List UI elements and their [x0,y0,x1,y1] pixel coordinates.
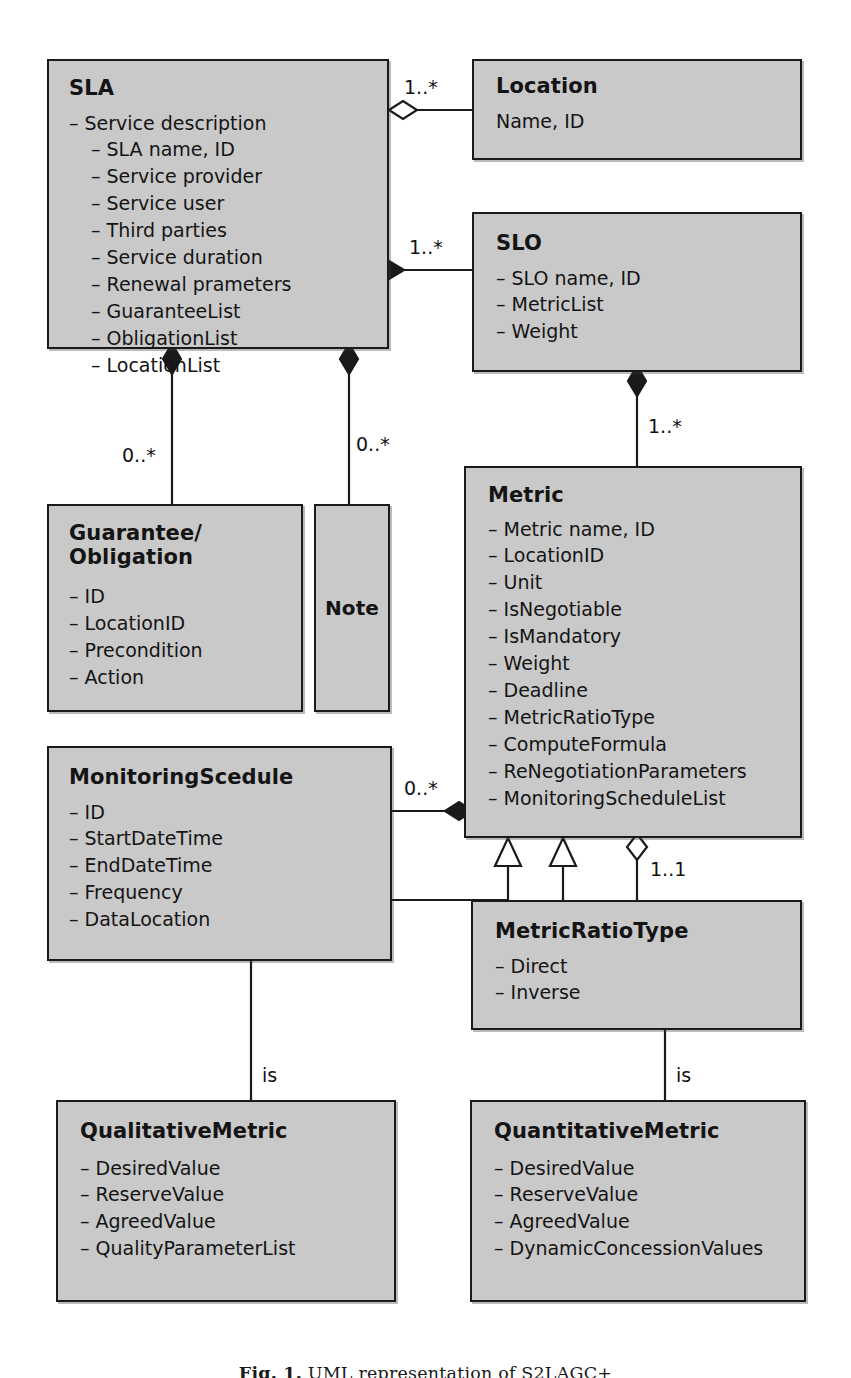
attr-item: – Inverse [495,979,788,1006]
attr-item: – Renewal prameters [69,271,373,298]
figure-caption-label: Fig. 1. [239,1363,302,1378]
attr-item: – Action [69,664,289,691]
attr-item: – Weight [496,318,786,345]
class-attrs-guarantee-obligation: – ID – LocationID – Precondition – Actio… [69,583,289,691]
class-attrs-metric: – Metric name, ID – LocationID – Unit – … [488,516,790,813]
figure-caption-text: UML representation of S2LAGC+ [308,1363,612,1378]
class-box-qualitative-metric[interactable]: QualitativeMetric – DesiredValue – Reser… [56,1100,396,1302]
class-title-qualitative-metric: QualitativeMetric [80,1120,382,1144]
attr-item: – AgreedValue [494,1208,796,1235]
attr-item: – IsMandatory [488,623,790,650]
class-attrs-slo: – SLO name, ID – MetricList – Weight [496,265,786,346]
class-title-monitoring-scedule: MonitoringScedule [69,766,378,790]
attr-item: – ComputeFormula [488,731,790,758]
multiplicity-monitoring-metric: 0..* [404,777,438,799]
attr-item: – GuaranteeList [69,298,373,325]
attr-item: – ReserveValue [494,1181,796,1208]
multiplicity-slo-metric: 1..* [648,415,682,437]
multiplicity-sla-guarantee: 0..* [122,444,156,466]
attr-item: – EndDateTime [69,852,378,879]
class-box-metric[interactable]: Metric – Metric name, ID – LocationID – … [464,466,802,838]
attr-item: – Metric name, ID [488,516,790,543]
class-title-metric-ratio-type: MetricRatioType [495,920,788,944]
class-title-sla: SLA [69,77,373,101]
class-box-monitoring-scedule[interactable]: MonitoringScedule – ID – StartDateTime –… [47,746,392,961]
attr-item: – DataLocation [69,906,378,933]
attr-item: – MetricList [496,291,786,318]
attr-item: – Direct [495,953,788,980]
attr-item: – LocationList [69,352,373,379]
class-attrs-monitoring-scedule: – ID – StartDateTime – EndDateTime – Fre… [69,799,378,934]
edge-label-is-quantitative: is [676,1064,691,1086]
edge-label-is-qualitative: is [262,1064,277,1086]
class-box-location[interactable]: Location Name, ID [472,59,802,160]
class-title-quantitative-metric: QuantitativeMetric [494,1120,796,1144]
class-box-note[interactable]: Note [314,504,390,712]
class-box-metric-ratio-type[interactable]: MetricRatioType – Direct – Inverse [471,900,802,1030]
class-box-sla[interactable]: SLA – Service description – SLA name, ID… [47,59,389,349]
attr-item: – Precondition [69,637,289,664]
multiplicity-sla-location: 1..* [404,76,438,98]
attr-item: – Service provider [69,163,373,190]
class-attrs-sla: – Service description – SLA name, ID – S… [69,110,373,380]
attr-item: – IsNegotiable [488,596,790,623]
attr-item: – AgreedValue [80,1208,382,1235]
attr-item: – Deadline [488,677,790,704]
attr-item: – LocationID [69,610,289,637]
attr-item: – Third parties [69,217,373,244]
aggregation-diamond-sla-location [389,101,417,119]
attr-item: – Service description [69,110,373,137]
attr-item: – Service duration [69,244,373,271]
figure-caption: Fig. 1. UML representation of S2LAGC+ [0,1363,851,1378]
class-attr-location-name-id: Name, ID [496,108,786,135]
attr-item: – QualityParameterList [80,1235,382,1262]
class-title-slo: SLO [496,232,786,256]
attr-item: – DesiredValue [80,1155,382,1182]
multiplicity-sla-note: 0..* [356,433,390,455]
generalization-triangle-quantitative [550,838,576,866]
class-attrs-qualitative-metric: – DesiredValue – ReserveValue – AgreedVa… [80,1155,382,1263]
class-box-quantitative-metric[interactable]: QuantitativeMetric – DesiredValue – Rese… [470,1100,806,1302]
class-title-guarantee-obligation: Guarantee/ Obligation [69,522,289,569]
class-attrs-metric-ratio-type: – Direct – Inverse [495,953,788,1007]
attr-item: – DesiredValue [494,1155,796,1182]
attr-item: – StartDateTime [69,825,378,852]
attr-item: – Frequency [69,879,378,906]
generalization-triangle-qualitative [495,838,521,866]
attr-item: – LocationID [488,542,790,569]
multiplicity-metric-ratiotype: 1..1 [650,858,686,880]
attr-item: – SLO name, ID [496,265,786,292]
attr-item: – SLA name, ID [69,136,373,163]
class-attrs-quantitative-metric: – DesiredValue – ReserveValue – AgreedVa… [494,1155,796,1263]
class-title-location: Location [496,75,786,99]
multiplicity-sla-slo: 1..* [409,236,443,258]
attr-item: – ReNegotiationParameters [488,758,790,785]
class-box-guarantee-obligation[interactable]: Guarantee/ Obligation – ID – LocationID … [47,504,303,712]
attr-item: – ID [69,583,289,610]
uml-diagram-canvas: 1..* 1..* 1..* 0..* 0..* 0..* 1..1 is is… [0,0,851,1378]
attr-item: – Weight [488,650,790,677]
attr-item: – Service user [69,190,373,217]
attr-item: – MonitoringScheduleList [488,785,790,812]
attr-item: – DynamicConcessionValues [494,1235,796,1262]
attr-item: – ReserveValue [80,1181,382,1208]
attr-item: – MetricRatioType [488,704,790,731]
class-title-note: Note [316,597,388,619]
class-box-slo[interactable]: SLO – SLO name, ID – MetricList – Weight [472,212,802,372]
class-title-metric: Metric [488,484,790,508]
attr-item: – Unit [488,569,790,596]
attr-item: – ObligationList [69,325,373,352]
attr-item: – ID [69,799,378,826]
